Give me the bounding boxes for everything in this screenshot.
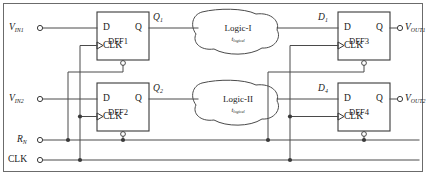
vout1-label: VOUT1 [405, 23, 426, 33]
dff4-q-pin: Q [376, 94, 383, 104]
vin2-label: VIN2 [9, 94, 24, 104]
circuit-diagram: VIN1 VIN2 RN CLK VOUT1 VOUT2 D Q DFF1 CL… [0, 0, 426, 175]
logic2-delay-label: tlogical [207, 107, 269, 114]
logic1-delay-label: tlogical [207, 36, 269, 43]
rn-label: RN [17, 135, 27, 145]
clk-label: CLK [8, 155, 27, 165]
dff3-d-pin: D [344, 23, 351, 33]
logic1-title: Logic-I [207, 24, 269, 33]
dff1-clk-pin: CLK [103, 41, 122, 51]
vout1-terminal[interactable] [397, 25, 402, 30]
wire-clk-to-dff3 [290, 46, 338, 161]
vin2-terminal[interactable] [37, 96, 42, 101]
q1-signal-label: Q1 [153, 13, 163, 23]
dff3-clk-pin: CLK [344, 41, 363, 51]
vout2-terminal[interactable] [397, 96, 402, 101]
clk-terminal[interactable] [37, 157, 42, 162]
vout2-label: VOUT2 [405, 94, 426, 104]
dff4-clk-pin: CLK [344, 112, 363, 122]
q2-signal-label: Q2 [153, 84, 163, 94]
dff4-d-pin: D [344, 94, 351, 104]
dff3-q-pin: Q [376, 23, 383, 33]
d1-signal-label: D1 [318, 13, 328, 23]
vin1-label: VIN1 [9, 23, 24, 33]
dff1-d-pin: D [103, 23, 110, 33]
rn-terminal[interactable] [37, 137, 42, 142]
dff2-d-pin: D [103, 94, 110, 104]
dff1-q-pin: Q [135, 23, 142, 33]
d4-signal-label: D4 [318, 84, 328, 94]
logic2-title: Logic-II [207, 95, 269, 104]
vin1-terminal[interactable] [37, 25, 42, 30]
dff2-q-pin: Q [135, 94, 142, 104]
wire-clk-to-dff1 [80, 46, 97, 161]
dff2-clk-pin: CLK [103, 112, 122, 122]
